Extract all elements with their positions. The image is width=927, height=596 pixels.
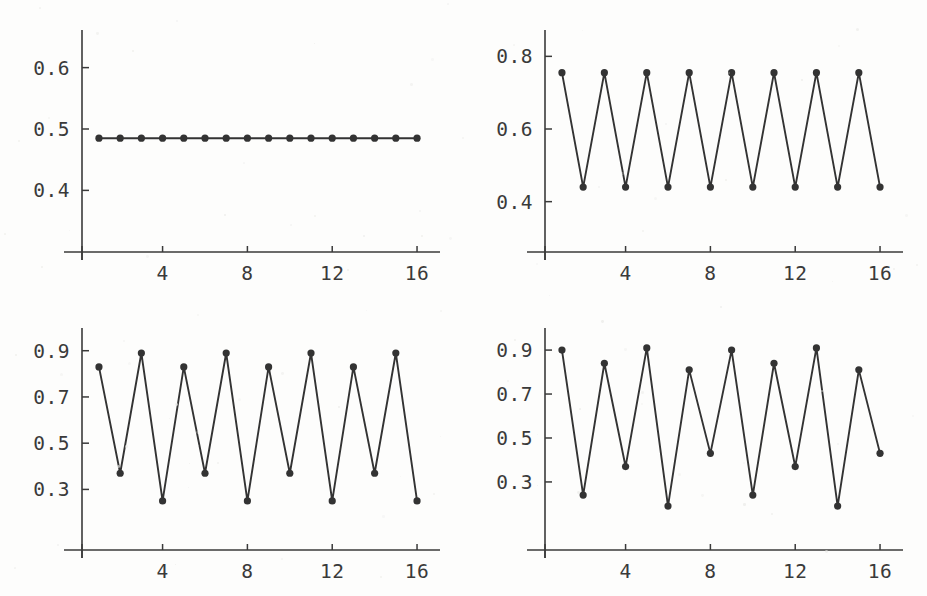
data-point-marker xyxy=(223,135,230,142)
data-point-marker xyxy=(265,135,272,142)
data-point-marker xyxy=(307,135,314,142)
x-tick-label: 8 xyxy=(241,560,253,583)
data-point-marker xyxy=(686,69,693,76)
y-tick-label: 0.9 xyxy=(496,339,533,362)
y-tick-label: 0.4 xyxy=(496,191,533,214)
data-point-marker xyxy=(159,497,166,504)
x-tick-label: 16 xyxy=(405,560,429,583)
data-point-marker xyxy=(392,135,399,142)
data-point-marker xyxy=(749,492,756,499)
data-point-marker xyxy=(138,349,145,356)
data-point-marker xyxy=(117,135,124,142)
data-point-marker xyxy=(792,184,799,191)
x-tick-label: 16 xyxy=(405,262,429,285)
plot-panel-top-left: 0.40.50.6481216 xyxy=(0,0,463,298)
y-tick-label: 0.6 xyxy=(33,57,70,80)
data-point-marker xyxy=(601,360,608,367)
chart-svg: 0.30.50.70.9481216 xyxy=(463,298,926,596)
x-tick-label: 8 xyxy=(704,262,716,285)
x-tick-label: 4 xyxy=(619,262,631,285)
plot-panel-bottom-right: 0.30.50.70.9481216 xyxy=(463,298,926,596)
data-line xyxy=(562,73,880,187)
plot-panel-bottom-left: 0.30.50.70.9481216 xyxy=(0,298,463,596)
x-tick-label: 8 xyxy=(241,262,253,285)
data-point-marker xyxy=(558,69,565,76)
data-point-marker xyxy=(392,349,399,356)
data-point-marker xyxy=(244,497,251,504)
y-tick-label: 0.3 xyxy=(33,478,70,501)
data-point-marker xyxy=(117,470,124,477)
data-line xyxy=(562,348,880,506)
chart-svg: 0.40.50.6481216 xyxy=(0,0,463,298)
x-tick-label: 4 xyxy=(156,560,168,583)
data-point-marker xyxy=(876,184,883,191)
figure-page: 0.40.50.6481216 0.40.60.8481216 0.30.50.… xyxy=(0,0,927,596)
data-point-marker xyxy=(95,363,102,370)
plot-panel-top-right: 0.40.60.8481216 xyxy=(463,0,926,298)
data-point-marker xyxy=(286,135,293,142)
x-tick-label: 16 xyxy=(868,262,892,285)
data-point-marker xyxy=(371,470,378,477)
data-point-marker xyxy=(350,135,357,142)
y-tick-label: 0.9 xyxy=(33,340,70,363)
data-point-marker xyxy=(265,363,272,370)
y-tick-label: 0.5 xyxy=(496,427,533,450)
data-point-marker xyxy=(350,363,357,370)
x-tick-label: 12 xyxy=(320,262,344,285)
x-tick-label: 8 xyxy=(704,560,716,583)
data-point-marker xyxy=(580,184,587,191)
data-point-marker xyxy=(307,349,314,356)
data-point-marker xyxy=(707,450,714,457)
x-tick-label: 12 xyxy=(783,262,807,285)
data-point-marker xyxy=(834,184,841,191)
data-point-marker xyxy=(413,135,420,142)
data-point-marker xyxy=(329,497,336,504)
data-point-marker xyxy=(180,363,187,370)
data-point-marker xyxy=(95,135,102,142)
data-point-marker xyxy=(643,344,650,351)
data-point-marker xyxy=(855,69,862,76)
x-tick-label: 12 xyxy=(783,560,807,583)
data-line xyxy=(99,353,417,501)
data-point-marker xyxy=(686,366,693,373)
data-point-marker xyxy=(159,135,166,142)
data-point-marker xyxy=(371,135,378,142)
data-point-marker xyxy=(813,344,820,351)
data-point-marker xyxy=(664,503,671,510)
data-point-marker xyxy=(876,450,883,457)
x-tick-label: 12 xyxy=(320,560,344,583)
data-point-marker xyxy=(728,346,735,353)
data-point-marker xyxy=(329,135,336,142)
data-point-marker xyxy=(286,470,293,477)
x-tick-label: 4 xyxy=(156,262,168,285)
data-point-marker xyxy=(664,184,671,191)
y-tick-label: 0.7 xyxy=(496,383,533,406)
data-point-marker xyxy=(813,69,820,76)
data-point-marker xyxy=(580,492,587,499)
data-point-marker xyxy=(180,135,187,142)
data-point-marker xyxy=(707,184,714,191)
chart-svg: 0.30.50.70.9481216 xyxy=(0,298,463,596)
data-point-marker xyxy=(601,69,608,76)
y-tick-label: 0.4 xyxy=(33,179,70,202)
data-point-marker xyxy=(622,463,629,470)
y-tick-label: 0.5 xyxy=(33,118,70,141)
x-tick-label: 4 xyxy=(619,560,631,583)
y-tick-label: 0.8 xyxy=(496,45,533,68)
data-point-marker xyxy=(201,470,208,477)
data-point-marker xyxy=(223,349,230,356)
y-tick-label: 0.3 xyxy=(496,471,533,494)
data-point-marker xyxy=(558,346,565,353)
data-point-marker xyxy=(413,497,420,504)
data-point-marker xyxy=(201,135,208,142)
data-point-marker xyxy=(834,503,841,510)
y-tick-label: 0.5 xyxy=(33,432,70,455)
data-point-marker xyxy=(728,69,735,76)
data-point-marker xyxy=(855,366,862,373)
data-point-marker xyxy=(622,184,629,191)
data-point-marker xyxy=(749,184,756,191)
data-point-marker xyxy=(244,135,251,142)
data-point-marker xyxy=(138,135,145,142)
x-tick-label: 16 xyxy=(868,560,892,583)
data-point-marker xyxy=(643,69,650,76)
